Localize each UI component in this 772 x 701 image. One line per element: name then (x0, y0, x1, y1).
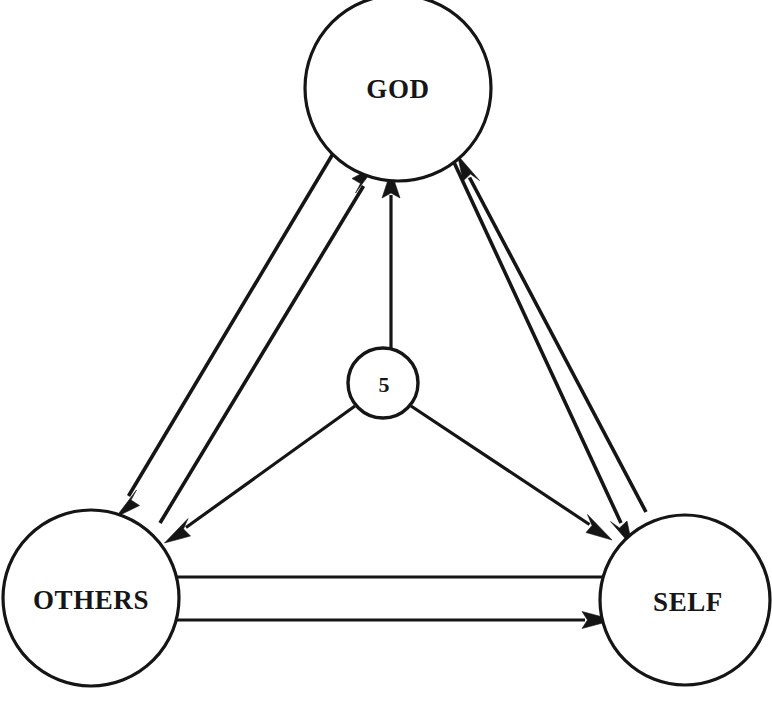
node-self-label: SELF (653, 587, 723, 617)
edge-center-to-self (411, 406, 612, 540)
edge-center-to-others-line (186, 406, 355, 528)
node-god[interactable]: GOD (305, 0, 491, 181)
node-center-five-label: 5 (379, 372, 390, 397)
edge-center-to-self-line (411, 406, 590, 525)
node-others-label: OTHERS (33, 585, 149, 615)
node-self[interactable]: SELF (600, 515, 770, 685)
arrowhead-into-self-from-center (586, 515, 612, 541)
node-god-label: GOD (366, 74, 429, 104)
node-others[interactable]: OTHERS (3, 510, 179, 686)
edge-self-to-god (458, 155, 647, 512)
edge-center-to-god (382, 171, 400, 348)
edge-others-to-self (170, 612, 614, 629)
edge-god-to-self-line (452, 158, 621, 523)
node-center-five[interactable]: 5 (348, 348, 418, 418)
edge-self-to-others (116, 569, 604, 586)
edge-god-to-self (452, 158, 633, 547)
arrowhead-into-others-from-center (165, 519, 191, 544)
edge-center-to-others (165, 406, 356, 543)
relationship-triangle-diagram: GOD OTHERS SELF 5 (0, 0, 772, 701)
diagram-canvas: GOD OTHERS SELF 5 (0, 0, 772, 701)
edge-god-to-others (116, 155, 333, 518)
